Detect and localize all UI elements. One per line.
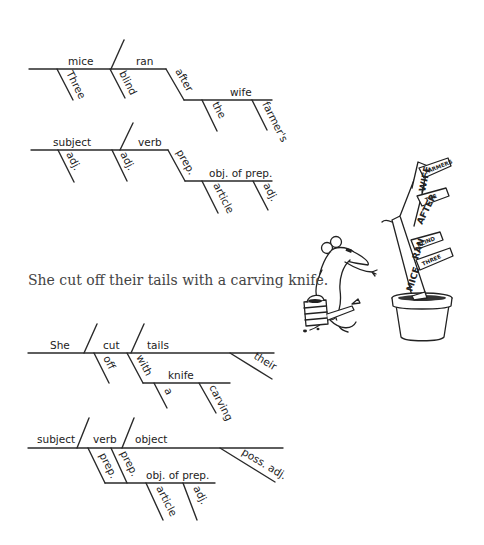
label-obj-of-prep: obj. of prep. xyxy=(209,167,272,179)
sentence-diagram-template-1: subject verb adj. adj. prep. obj. of pre… xyxy=(31,123,281,215)
word-subject: She xyxy=(50,339,70,351)
word-verb-modifier: off xyxy=(101,353,118,371)
word-object-of-prep: wife xyxy=(230,86,252,98)
word-prep-modifier-1: the xyxy=(210,99,229,120)
label-obj-of-prep: obj. of prep. xyxy=(146,469,209,481)
label-verb-prep: prep. xyxy=(97,450,120,480)
word-prep-modifier-2: carving xyxy=(207,382,235,422)
label-subject: subject xyxy=(53,136,91,148)
sentence-diagram-template-2: subject verb object prep. prep. obj. of … xyxy=(28,418,289,520)
word-modifier-1: Three xyxy=(64,68,89,101)
word-prep-modifier-1: a xyxy=(162,385,176,396)
sentence-diagram-1: mice ran Three blind after wife the farm… xyxy=(29,40,291,144)
label-article: article xyxy=(154,483,180,518)
word-prep-modifier-2: farmer's xyxy=(260,99,291,143)
word-object-of-prep: knife xyxy=(168,369,194,381)
label-object: object xyxy=(135,433,167,445)
word-subject: mice xyxy=(68,55,93,67)
word-object: tails xyxy=(147,339,169,351)
label-adj-3: adj. xyxy=(261,180,280,203)
label-prep: prep. xyxy=(118,448,141,478)
label-article: article xyxy=(211,180,237,215)
label-adj: adj. xyxy=(191,483,210,506)
label-subject: subject xyxy=(37,433,75,445)
word-preposition: after xyxy=(173,66,196,94)
word-modifier-2: blind xyxy=(117,68,139,96)
label-prep: prep. xyxy=(174,147,198,177)
label-verb: verb xyxy=(93,433,117,445)
sentence-diagram-2: She cut tails off with knife a carving t… xyxy=(28,324,280,423)
word-verb: ran xyxy=(136,55,153,67)
word-verb: cut xyxy=(103,339,120,351)
sentence-plant-illustration: MICE RAN AFTER WIFE FARMERS THE BLIND TH… xyxy=(382,158,453,341)
example-sentence: She cut off their tails with a carving k… xyxy=(28,272,328,288)
label-verb: verb xyxy=(138,136,162,148)
